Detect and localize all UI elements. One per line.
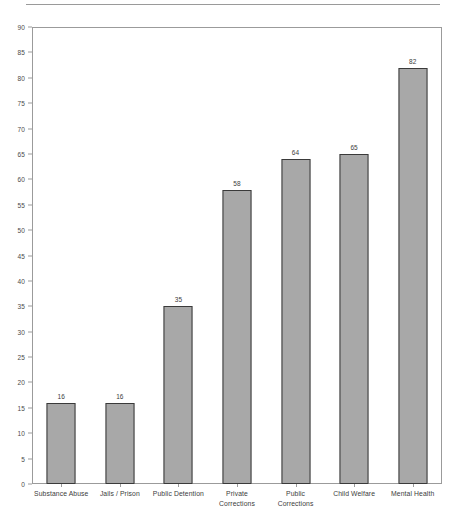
y-axis-tick-label: 20 (18, 379, 25, 386)
y-axis-tick-label: 25 (18, 354, 25, 361)
y-axis-tick-label: 85 (18, 49, 25, 56)
bar-slot: 65 (325, 27, 384, 484)
y-axis-tick-label: 0 (21, 481, 25, 488)
bar (47, 403, 76, 484)
bar-slot: 82 (383, 27, 442, 484)
bar-slot: 35 (149, 27, 208, 484)
bar (164, 306, 193, 484)
x-axis-tick-mark (120, 484, 121, 487)
x-axis-tick-mark (296, 484, 297, 487)
bar-value-label: 35 (175, 296, 182, 303)
bar-value-label: 64 (292, 149, 299, 156)
bar-value-label: 16 (116, 393, 123, 400)
x-axis-category-label: Public Detention (149, 489, 208, 499)
bar (105, 403, 134, 484)
bar-series: 16163558646582 (32, 27, 442, 484)
x-axis-category-label: PrivateCorrections (208, 489, 267, 508)
y-axis-tick-label: 75 (18, 100, 25, 107)
y-axis-tick-label: 45 (18, 252, 25, 259)
y-axis-tick-label: 40 (18, 277, 25, 284)
bar-slot: 58 (208, 27, 267, 484)
bar-value-label: 58 (233, 180, 240, 187)
bar (222, 190, 251, 485)
y-axis: 051015202530354045505560657075808590 (0, 27, 32, 484)
bar-slot: 16 (32, 27, 91, 484)
x-axis-category-label: PublicCorrections (266, 489, 325, 508)
bar (398, 68, 427, 484)
bar (340, 154, 369, 484)
y-axis-tick-label: 60 (18, 176, 25, 183)
page-top-rule (26, 4, 440, 5)
y-axis-tick-label: 55 (18, 201, 25, 208)
y-axis-tick-label: 5 (21, 455, 25, 462)
y-axis-tick-label: 65 (18, 150, 25, 157)
x-axis-category-label: Child Welfare (325, 489, 384, 499)
bar-value-label: 82 (409, 58, 416, 65)
y-axis-tick-label: 80 (18, 74, 25, 81)
x-axis-category-label: Jails / Prison (91, 489, 150, 499)
bar-value-label: 16 (58, 393, 65, 400)
bar (281, 159, 310, 484)
y-axis-tick-label: 15 (18, 404, 25, 411)
x-axis-tick-mark (61, 484, 62, 487)
x-axis-tick-mark (413, 484, 414, 487)
y-axis-tick-label: 10 (18, 430, 25, 437)
bar-value-label: 65 (350, 144, 357, 151)
x-axis-category-label: Mental Health (383, 489, 442, 499)
y-axis-tick-label: 35 (18, 303, 25, 310)
x-axis: Substance AbuseJails / PrisonPublic Dete… (32, 489, 442, 519)
y-axis-tick-label: 50 (18, 227, 25, 234)
y-axis-tick-label: 70 (18, 125, 25, 132)
y-axis-tick-label: 30 (18, 328, 25, 335)
x-axis-tick-mark (354, 484, 355, 487)
bar-slot: 16 (91, 27, 150, 484)
x-axis-category-label: Substance Abuse (32, 489, 91, 499)
x-axis-tick-mark (237, 484, 238, 487)
y-axis-tick-label: 90 (18, 24, 25, 31)
x-axis-tick-mark (178, 484, 179, 487)
bar-slot: 64 (266, 27, 325, 484)
